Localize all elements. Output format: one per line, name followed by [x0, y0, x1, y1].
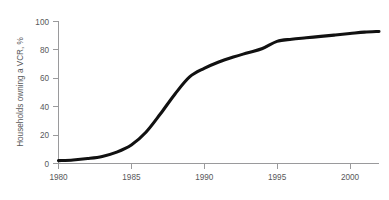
y-tick-label: 40: [40, 103, 50, 112]
y-tick-label: 60: [40, 74, 50, 83]
x-tick-label: 1995: [268, 173, 287, 182]
x-axis-tick-labels: 1980 1985 1990 1995 2000: [49, 173, 359, 182]
x-tick-label: 1985: [122, 173, 141, 182]
y-tick-label: 80: [40, 46, 50, 55]
x-axis-ticks: [59, 164, 351, 170]
data-line-series-0: [59, 31, 380, 160]
y-tick-label: 20: [40, 131, 50, 140]
x-tick-label: 2000: [341, 173, 360, 182]
y-axis-ticks: [53, 22, 59, 164]
y-axis-tick-labels: 100 80 60 40 20 0: [35, 18, 49, 169]
x-tick-label: 1980: [49, 173, 68, 182]
y-axis-title: Households owning a VCR, %: [16, 37, 25, 147]
x-tick-label: 1990: [195, 173, 214, 182]
y-tick-label: 100: [35, 18, 49, 27]
y-tick-label: 0: [44, 160, 49, 169]
chart-figure: 100 80 60 40 20 0 1980 1985 1990 1995 20…: [0, 0, 389, 200]
chart-canvas: 100 80 60 40 20 0 1980 1985 1990 1995 20…: [0, 0, 389, 200]
